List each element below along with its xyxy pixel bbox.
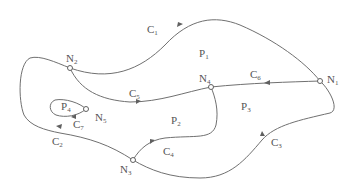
label-c7: C7 xyxy=(73,118,84,132)
node-n5 xyxy=(84,107,89,112)
edge-c3-arrow-icon xyxy=(260,131,265,136)
label-c2: C2 xyxy=(52,135,63,149)
edge-c2-arrow-icon xyxy=(56,124,62,129)
edge-c1-arrow-icon xyxy=(177,22,183,27)
label-c3: C3 xyxy=(271,136,282,150)
planar-graph-diagram: N1 N2 N3 N4 N5 C1 C2 C3 C4 C5 C6 C7 P1 P… xyxy=(0,0,353,190)
label-c4: C4 xyxy=(163,145,174,159)
label-p1: P1 xyxy=(199,47,209,61)
edge-c4-arrow-icon xyxy=(150,139,155,144)
node-n3 xyxy=(131,158,136,163)
label-n2: N2 xyxy=(66,52,78,66)
label-c6: C6 xyxy=(250,68,261,82)
label-p4: P4 xyxy=(61,100,71,114)
edge-c6-arrow-icon xyxy=(264,80,270,85)
label-n1: N1 xyxy=(327,73,339,87)
label-p2: P2 xyxy=(171,114,181,128)
edge-c3 xyxy=(133,81,334,178)
edge-c6 xyxy=(211,81,320,87)
label-c1: C1 xyxy=(147,23,158,37)
node-n2 xyxy=(68,66,73,71)
label-c5: C5 xyxy=(129,87,140,101)
label-n4: N4 xyxy=(199,72,211,86)
edge-c1 xyxy=(70,20,320,81)
label-p3: P3 xyxy=(241,100,251,114)
label-n5: N5 xyxy=(95,111,107,125)
node-n1 xyxy=(318,79,323,84)
label-n3: N3 xyxy=(120,163,132,177)
